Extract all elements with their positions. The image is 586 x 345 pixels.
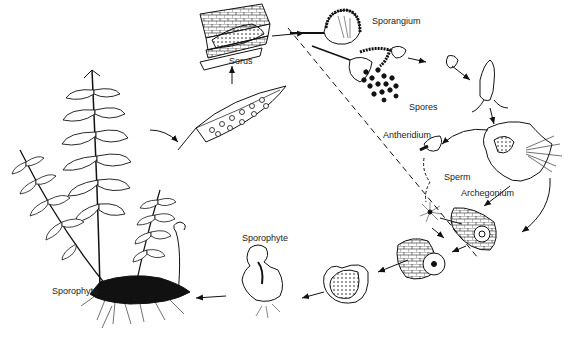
archegonium-illustration: [440, 208, 496, 250]
embryo-illustration: [324, 265, 369, 303]
antheridium-illustration: [420, 136, 442, 222]
label-archegonium: Archegonium: [461, 189, 514, 198]
label-sperm: Sperm: [444, 173, 471, 182]
label-antheridium: Antheridium: [383, 131, 431, 140]
fertile-pinna-illustration: [178, 86, 286, 150]
gametophyte-illustration: [483, 122, 562, 181]
dehiscing-sporangium-illustration: [312, 46, 406, 102]
sporangium-illustration: [290, 10, 360, 44]
fern-life-cycle-diagram: Sorus Sporangium Spores Antheridium Sper…: [0, 0, 586, 345]
label-young-sporophyte: Sporophyte: [242, 234, 288, 243]
mature-sporophyte-illustration: [12, 70, 190, 328]
label-sorus: Sorus: [229, 57, 253, 66]
label-sporangium: Sporangium: [372, 17, 421, 26]
young-sporophyte-illustration: [242, 245, 283, 318]
germinating-spore-illustration: [446, 56, 508, 113]
zygote-illustration: [397, 239, 445, 279]
label-mature-sporophyte: Sporophyte: [52, 287, 98, 296]
label-spores: Spores: [409, 103, 438, 112]
